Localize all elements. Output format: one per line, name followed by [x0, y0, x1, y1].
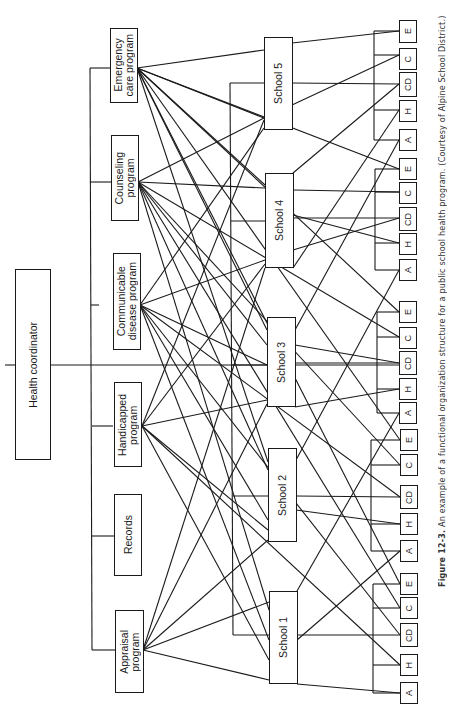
school-4-box: School 4: [265, 173, 294, 268]
unit-box-s4-c: C: [399, 182, 417, 204]
program-label: Handicapped program: [117, 394, 139, 456]
school-2-box: School 2: [268, 448, 297, 542]
program-label: Communicable disease program: [116, 262, 138, 340]
unit-box-s5-a: A: [399, 129, 417, 151]
unit-box-s3-h: H: [399, 378, 417, 400]
program-label: Appraisal program: [119, 630, 141, 674]
program-handicapped: Handicapped program: [114, 382, 142, 467]
school-label: School 2: [277, 475, 288, 516]
school-1-box: School 1: [269, 591, 298, 684]
unit-box-s5-cd: CD: [399, 72, 417, 97]
program-records: Records: [114, 494, 142, 576]
unit-box-s2-e: E: [400, 429, 418, 451]
program-emergency-care: Emergency care program: [110, 28, 138, 103]
figure-caption-text: An example of a functional organization …: [438, 16, 447, 528]
school-3-box: School 3: [267, 317, 296, 407]
unit-box-s3-cd: CD: [399, 351, 417, 375]
unit-box-s5-h: H: [399, 100, 417, 122]
school-label: School 3: [276, 342, 287, 383]
school-label: School 1: [278, 617, 289, 658]
unit-box-s2-cd: CD: [400, 485, 418, 509]
health-coordinator-label: Health coordinator: [28, 322, 39, 408]
unit-box-s1-h: H: [400, 654, 418, 676]
unit-box-s1-c: C: [400, 597, 418, 619]
program-appraisal: Appraisal program: [115, 610, 144, 693]
unit-box-s2-h: H: [400, 513, 418, 535]
unit-box-s3-c: C: [399, 327, 417, 349]
program-label: Counseling program: [114, 152, 136, 205]
unit-box-s4-a: A: [399, 259, 417, 281]
program-label: Records: [123, 515, 134, 554]
unit-box-s2-a: A: [400, 540, 418, 562]
program-communicable-disease: Communicable disease program: [113, 253, 141, 350]
unit-box-s5-e: E: [399, 20, 417, 43]
unit-box-s1-cd: CD: [400, 623, 418, 647]
school-label: School 4: [274, 200, 285, 241]
unit-box-s2-c: C: [400, 454, 418, 476]
unit-box-s4-h: H: [399, 233, 417, 255]
program-counseling: Counseling program: [111, 135, 139, 221]
unit-box-s5-c: C: [399, 48, 417, 70]
unit-box-s1-e: E: [400, 573, 418, 595]
unit-box-s1-a: A: [400, 682, 418, 704]
figure-caption: Figure 12-3. An example of a functional …: [438, 16, 447, 706]
unit-box-s3-a: A: [399, 402, 417, 424]
program-label: Emergency care program: [113, 34, 135, 96]
unit-box-s3-e: E: [399, 301, 417, 323]
school-5-box: School 5: [264, 37, 293, 130]
unit-box-s4-e: E: [399, 158, 417, 180]
unit-box-s4-cd: CD: [399, 207, 417, 231]
figure-number: Figure 12-3.: [438, 530, 447, 587]
school-label: School 5: [273, 63, 284, 104]
health-coordinator-box: Health coordinator: [15, 269, 51, 460]
